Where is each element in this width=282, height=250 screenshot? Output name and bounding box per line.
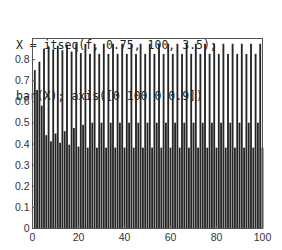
- bar: [80, 53, 82, 228]
- bar: [179, 148, 181, 229]
- bar: [128, 123, 130, 229]
- bar: [232, 44, 234, 229]
- bar: [68, 145, 70, 229]
- x-tick-label: 20: [73, 231, 85, 243]
- bar: [50, 141, 52, 228]
- bar-chart: 00.10.20.30.40.50.60.70.8 020406080100: [0, 0, 282, 250]
- bar: [110, 123, 112, 229]
- bar: [165, 123, 167, 229]
- bar: [216, 148, 218, 229]
- x-tick-label: 40: [119, 231, 131, 243]
- bar: [156, 123, 158, 229]
- bar: [167, 44, 169, 229]
- bar: [160, 148, 162, 229]
- bar: [135, 54, 137, 229]
- x-tick-label: 80: [211, 231, 223, 243]
- bar: [105, 148, 107, 229]
- bar: [55, 134, 57, 229]
- bar: [176, 44, 178, 229]
- bar: [220, 123, 222, 229]
- x-tick-label: 0: [30, 231, 36, 243]
- bar: [199, 54, 201, 229]
- bar: [117, 54, 119, 229]
- bar: [48, 46, 50, 228]
- bar: [209, 54, 211, 229]
- bar: [163, 54, 165, 229]
- y-axis-ticks: 00.10.20.30.40.50.60.70.8: [15, 53, 35, 234]
- y-tick-label: 0.1: [15, 201, 30, 213]
- bar: [257, 123, 259, 229]
- bar: [94, 44, 96, 229]
- bar: [137, 123, 139, 229]
- y-tick-label: 0.7: [15, 74, 30, 86]
- bar: [239, 123, 241, 229]
- bar: [197, 148, 199, 229]
- bar: [243, 148, 245, 229]
- bar: [98, 54, 100, 229]
- bar: [82, 125, 84, 229]
- bar: [91, 123, 93, 229]
- y-tick-label: 0.6: [15, 95, 30, 107]
- bar: [183, 123, 185, 229]
- bar: [57, 46, 59, 229]
- bar: [45, 135, 47, 228]
- bar: [124, 148, 126, 229]
- bar: [248, 123, 250, 229]
- bar: [101, 123, 103, 229]
- bar: [245, 54, 247, 229]
- bar: [66, 45, 68, 229]
- bar: [133, 148, 135, 229]
- bar: [103, 44, 105, 229]
- y-tick-label: 0.5: [15, 116, 30, 128]
- bar: [222, 44, 224, 229]
- bar: [193, 123, 195, 229]
- bar: [241, 44, 243, 229]
- bar: [225, 148, 227, 229]
- bar: [218, 54, 220, 229]
- y-tick-label: 0.4: [15, 138, 30, 150]
- x-tick-label: 100: [254, 231, 272, 243]
- bar: [149, 44, 151, 229]
- y-tick-label: 0.8: [15, 53, 30, 65]
- bar: [36, 90, 38, 228]
- bar: [172, 54, 174, 229]
- bar: [255, 54, 257, 229]
- y-tick-label: 0.2: [15, 180, 30, 192]
- bar: [195, 44, 197, 229]
- bar: [126, 54, 128, 229]
- bar: [107, 54, 109, 229]
- bar: [151, 148, 153, 229]
- bar: [61, 50, 63, 228]
- bar: [144, 54, 146, 229]
- bar: [202, 123, 204, 229]
- bar: [153, 54, 155, 229]
- bar: [252, 148, 254, 229]
- bar: [59, 143, 61, 229]
- bar: [64, 131, 66, 228]
- bar-series: [34, 44, 264, 229]
- bar: [84, 44, 86, 229]
- bar: [250, 44, 252, 229]
- bar: [186, 44, 188, 229]
- bar: [234, 148, 236, 229]
- bar: [87, 148, 89, 229]
- bar: [188, 148, 190, 229]
- bar: [190, 54, 192, 229]
- x-tick-label: 60: [165, 231, 177, 243]
- bar: [259, 44, 261, 229]
- y-tick-label: 0.3: [15, 159, 30, 171]
- bar: [170, 148, 172, 229]
- bar: [227, 54, 229, 229]
- bar: [213, 44, 215, 229]
- bar: [73, 128, 75, 228]
- bar: [121, 44, 123, 229]
- bar: [229, 123, 231, 229]
- bar: [204, 44, 206, 229]
- bar: [130, 44, 132, 229]
- bar: [78, 147, 80, 229]
- bar: [181, 54, 183, 229]
- bar: [211, 123, 213, 229]
- bar: [52, 49, 54, 228]
- bar: [71, 52, 73, 229]
- bar: [112, 44, 114, 229]
